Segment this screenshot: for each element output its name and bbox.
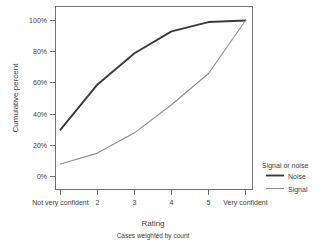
y-tick-label-20: 20%: [33, 142, 47, 149]
legend: Signal or noise Noise Signal: [262, 162, 308, 194]
clipped-header-text: [8, 0, 308, 2]
y-tick-label-100: 100%: [29, 17, 47, 24]
series-line-noise: [61, 21, 246, 130]
x-tick-label-6: Very confident: [223, 199, 267, 207]
series-group: [61, 21, 246, 165]
y-axis-title: Cumulative percent: [11, 63, 20, 133]
legend-title: Signal or noise: [262, 162, 308, 170]
x-tick-label-5: 5: [207, 199, 211, 206]
y-tick-label-60: 60%: [33, 79, 47, 86]
legend-label-noise: Noise: [288, 173, 306, 180]
x-axis-subtitle: Cases weighted by count: [117, 232, 190, 240]
y-tick-label-40: 40%: [33, 111, 47, 118]
x-axis: Not very confident 2 3 4 5 Very confiden…: [32, 190, 267, 208]
x-tick-label-1: Not very confident: [32, 199, 88, 207]
cumulative-percent-chart: 0% 20% 40% 60% 80% 100% Cumulative perce…: [0, 0, 324, 245]
x-tick-label-4: 4: [170, 199, 174, 206]
x-tick-label-2: 2: [96, 199, 100, 206]
plot-frame: [56, 7, 253, 190]
y-tick-label-80: 80%: [33, 48, 47, 55]
chart-svg: 0% 20% 40% 60% 80% 100% Cumulative perce…: [0, 0, 324, 245]
x-tick-label-3: 3: [133, 199, 137, 206]
y-axis: 0% 20% 40% 60% 80% 100%: [29, 17, 55, 180]
legend-label-signal: Signal: [288, 186, 308, 194]
y-tick-label-0: 0%: [37, 173, 47, 180]
x-axis-title: Rating: [141, 219, 164, 228]
